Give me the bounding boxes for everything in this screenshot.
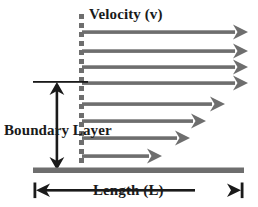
velocity-arrow-1 — [82, 25, 248, 40]
diagram-canvas — [0, 0, 258, 207]
velocity-arrow-2 — [82, 44, 248, 59]
velocity-label: Velocity (v) — [89, 7, 163, 22]
length-label: Length (L) — [93, 183, 164, 198]
velocity-arrow-8 — [82, 149, 162, 164]
flat-plate-surface — [33, 168, 244, 174]
velocity-arrow-group — [82, 25, 248, 164]
velocity-arrow-3 — [82, 60, 248, 75]
leading-edge-dotted-line — [79, 14, 84, 163]
boundary-layer-label: Boundary Layer — [4, 123, 112, 138]
boundary-layer-edge-line — [33, 81, 88, 83]
boundary-layer-diagram: Velocity (v) Boundary Layer Length (L) — [0, 0, 258, 207]
velocity-arrow-5 — [82, 97, 225, 112]
velocity-arrow-4 — [82, 76, 248, 91]
